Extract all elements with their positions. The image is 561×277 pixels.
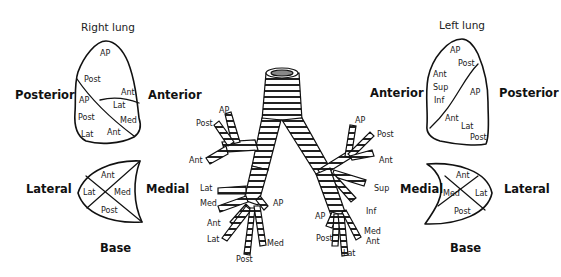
left-base-med: Med bbox=[443, 190, 460, 198]
bronchus-l-lower-lat: Lat bbox=[343, 250, 356, 258]
lul-post: Post bbox=[458, 60, 475, 68]
rll-lat: Lat bbox=[81, 131, 94, 139]
bronchial-tree bbox=[206, 68, 374, 256]
right-base-title: Base bbox=[100, 243, 131, 255]
rll-ant: Ant bbox=[107, 129, 121, 137]
right-base-lat: Lat bbox=[83, 189, 96, 197]
bronchus-l-upper-inf: Inf bbox=[366, 208, 376, 216]
bronchus-r-upper-post: Post bbox=[196, 120, 213, 128]
bronchus-r-lower-post: Post bbox=[236, 256, 253, 264]
right-base-ant: Ant bbox=[101, 172, 115, 180]
right-base-medial-label: Medial bbox=[146, 184, 189, 196]
bronchus-l-lower-post: Post bbox=[316, 235, 333, 243]
lll-post: Post bbox=[470, 134, 487, 142]
rll-post: Post bbox=[78, 114, 95, 122]
bronchus-l-upper-ant: Ant bbox=[379, 157, 393, 165]
lul-inf: Inf bbox=[434, 97, 444, 105]
bronchus-l-lower-ant: Ant bbox=[366, 238, 380, 246]
right-base-lateral-label: Lateral bbox=[26, 184, 72, 196]
bronchus-l-upper-sup: Sup bbox=[374, 185, 389, 193]
rul-ant: Ant bbox=[121, 89, 135, 97]
left-base-lat: Lat bbox=[475, 190, 488, 198]
bronchus-l-lower-med: Med bbox=[364, 228, 381, 236]
bronchus-r-lower-lat: Lat bbox=[207, 236, 220, 244]
bronchus-r-middle-med: Med bbox=[200, 200, 217, 208]
right-lung-title: Right lung bbox=[81, 22, 135, 33]
bronchus-r-middle-lat: Lat bbox=[200, 185, 213, 193]
left-lung-posterior-label: Posterior bbox=[499, 88, 559, 100]
left-base-medial-label: Medial bbox=[400, 184, 443, 196]
left-base-title: Base bbox=[450, 243, 481, 255]
right-lung-anterior-label: Anterior bbox=[148, 90, 202, 102]
rul-post: Post bbox=[84, 76, 101, 84]
lul-ap: AP bbox=[450, 47, 460, 55]
left-lung-anterior-label: Anterior bbox=[370, 88, 424, 100]
lul-ant: Ant bbox=[433, 71, 447, 79]
left-base-lateral-label: Lateral bbox=[504, 184, 550, 196]
left-lung-title: Left lung bbox=[439, 20, 485, 31]
lll-ant: Ant bbox=[445, 115, 459, 123]
right-base-med: Med bbox=[114, 189, 131, 197]
lll-lat: Lat bbox=[461, 123, 474, 131]
bronchus-r-lower-ap: AP bbox=[273, 200, 283, 208]
lll-ap: AP bbox=[470, 89, 480, 97]
rml-lat: Lat bbox=[113, 102, 126, 110]
lul-sup: Sup bbox=[433, 84, 448, 92]
bronchus-r-lower-med: Med bbox=[267, 240, 284, 248]
right-base-post: Post bbox=[101, 207, 118, 215]
right-lung-posterior-label: Posterior bbox=[15, 90, 75, 102]
rul-ap: AP bbox=[100, 50, 110, 58]
rll-ap: AP bbox=[79, 97, 89, 105]
bronchus-l-upper-ap: AP bbox=[355, 117, 365, 125]
bronchus-r-lower-ant: Ant bbox=[207, 220, 221, 228]
left-base-ant: Ant bbox=[456, 172, 470, 180]
bronchus-r-upper-ant: Ant bbox=[189, 157, 203, 165]
bronchus-l-lower-ap: AP bbox=[315, 213, 325, 221]
rml-med: Med bbox=[120, 117, 137, 125]
left-base-post: Post bbox=[454, 208, 471, 216]
bronchus-r-upper-ap: AP bbox=[219, 107, 229, 115]
bronchus-l-upper-post: Post bbox=[377, 131, 394, 139]
